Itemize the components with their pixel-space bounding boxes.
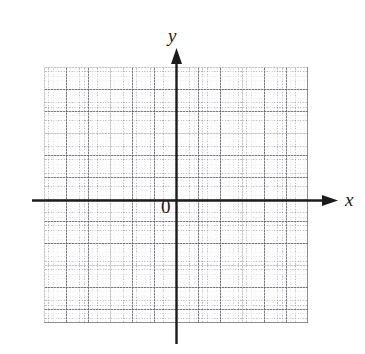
coordinate-plane-figure: y x 0 <box>0 0 365 354</box>
grid-area <box>44 67 308 323</box>
major-grid-dot-mask <box>44 67 308 323</box>
grid-right-edge <box>307 67 308 323</box>
grid-bottom-edge <box>44 322 308 323</box>
x-axis-arrow-icon <box>322 195 338 206</box>
y-axis-arrow-icon <box>171 48 182 64</box>
y-axis-label: y <box>168 26 176 45</box>
major-grid-lines <box>44 67 308 323</box>
minor-grid-dots <box>44 67 308 323</box>
x-axis-label: x <box>345 190 353 209</box>
origin-label: 0 <box>161 197 171 216</box>
